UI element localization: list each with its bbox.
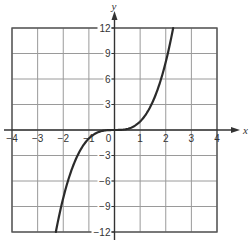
x-tick-labels: −4−3−2−101234 (6, 133, 220, 144)
x-axis-arrow-icon (231, 127, 240, 133)
x-tick-label: 0 (106, 133, 112, 144)
x-tick-label: 3 (189, 133, 195, 144)
y-axis-label: y (111, 0, 117, 12)
y-tick-label: 12 (99, 23, 111, 34)
x-tick-label: 1 (137, 133, 143, 144)
x-tick-label: −3 (32, 133, 44, 144)
x-tick-label: 4 (214, 133, 220, 144)
y-tick-label: −6 (99, 176, 111, 187)
y-tick-label: 3 (105, 99, 111, 110)
y-axis-arrow-icon (112, 11, 118, 20)
y-tick-label: 9 (105, 48, 111, 59)
y-tick-label: 6 (105, 74, 111, 85)
x-tick-label: −2 (58, 133, 70, 144)
x-tick-label: −1 (83, 133, 95, 144)
x-tick-label: −4 (6, 133, 18, 144)
x-axis-label: x (242, 124, 248, 136)
cubic-function-graph: −4−3−2−101234 −12−9−6−336912 x y (0, 0, 251, 246)
y-tick-label: −9 (99, 201, 111, 212)
x-tick-label: 2 (163, 133, 169, 144)
axes (4, 11, 240, 240)
y-tick-label: −3 (99, 150, 111, 161)
y-tick-label: −12 (94, 227, 111, 238)
